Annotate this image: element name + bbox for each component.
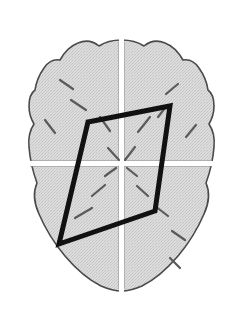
brain-figure: Axial brain section with quadrant divisi… — [0, 0, 241, 311]
brain-diagram-svg — [0, 0, 241, 311]
